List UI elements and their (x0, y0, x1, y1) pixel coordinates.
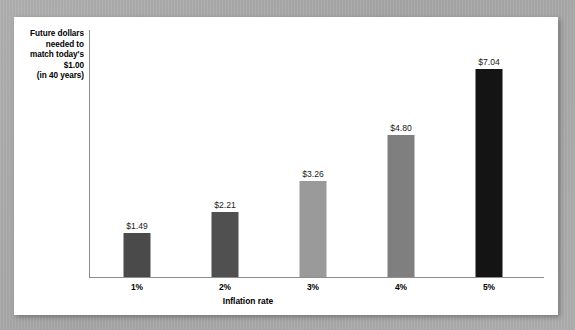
page-background: Future dollars needed to match today's $… (0, 0, 575, 330)
x-tick-label-5: 5% (483, 282, 495, 292)
bar-1 (124, 233, 151, 277)
bar-4 (388, 135, 415, 277)
y-axis-caption: Future dollars needed to match today's $… (18, 29, 84, 82)
y-axis-caption-line-5: (in 40 years) (18, 71, 84, 82)
bar-column-2: $2.21 2% (185, 17, 265, 277)
bar-value-2: $2.21 (214, 200, 236, 210)
y-axis-caption-line-2: needed to (18, 40, 84, 51)
x-tick-label-1: 1% (131, 282, 143, 292)
y-axis-caption-line-1: Future dollars (18, 29, 84, 40)
x-tick-label-3: 3% (307, 282, 319, 292)
y-axis-caption-line-3: match today's (18, 50, 84, 61)
chart-card: Future dollars needed to match today's $… (14, 17, 558, 315)
bar-column-5: $7.04 5% (449, 17, 529, 277)
bar-value-3: $3.26 (302, 169, 324, 179)
bar-value-4: $4.80 (390, 123, 412, 133)
y-axis-caption-line-4: $1.00 (18, 61, 84, 72)
bar-3 (300, 181, 327, 277)
bar-chart: Future dollars needed to match today's $… (14, 17, 558, 315)
x-axis-line (89, 277, 544, 278)
x-tick-label-2: 2% (219, 282, 231, 292)
bar-column-3: $3.26 3% (273, 17, 353, 277)
bar-column-1: $1.49 1% (97, 17, 177, 277)
bar-value-1: $1.49 (126, 221, 148, 231)
bar-column-4: $4.80 4% (361, 17, 441, 277)
bar-2 (212, 212, 239, 277)
x-axis-title: Inflation rate (223, 296, 273, 306)
bar-series: $1.49 1% $2.21 2% $3.26 3% $4.80 (89, 17, 544, 277)
x-tick-label-4: 4% (395, 282, 407, 292)
bar-value-5: $7.04 (478, 57, 500, 67)
bar-5 (476, 69, 503, 277)
